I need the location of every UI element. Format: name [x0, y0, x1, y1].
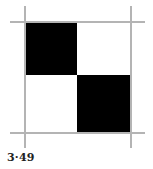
figure-caption: 3·49 — [7, 151, 35, 164]
cell-bottom-left-white — [26, 75, 77, 132]
frame-line-top — [10, 21, 145, 23]
cell-top-right-white — [77, 23, 130, 75]
checkerboard-figure: 3·49 — [0, 0, 153, 169]
frame-line-bottom — [10, 132, 145, 134]
frame-line-right — [130, 6, 132, 148]
cell-top-left-black — [26, 23, 77, 75]
frame-line-left — [24, 6, 26, 148]
cell-bottom-right-black — [77, 75, 130, 132]
